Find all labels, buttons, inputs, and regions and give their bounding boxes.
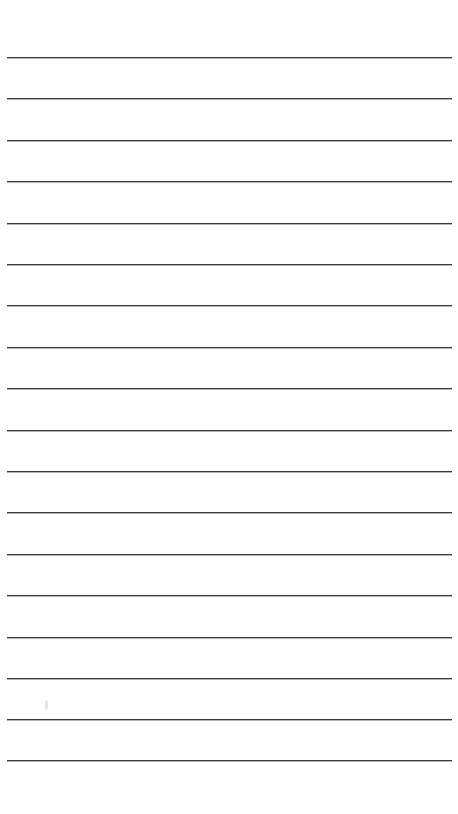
rule-line [7,430,452,431]
rule-line [7,512,452,513]
rule-line [7,223,452,224]
rule-line [7,347,452,348]
rule-line [7,98,452,99]
rule-line [7,760,452,761]
rule-line [7,678,452,679]
rule-line [7,719,452,720]
rule-line [7,181,452,182]
lined-paper-page [0,0,458,814]
rule-line [7,140,452,141]
rule-line [7,57,452,58]
rule-line [7,471,452,472]
rule-line [7,305,452,306]
rule-line [7,264,452,265]
rule-line [7,554,452,555]
ruled-lines-container [0,0,458,814]
rule-line [7,388,452,389]
faint-smudge-mark [45,700,48,710]
rule-line [7,637,452,638]
rule-line [7,595,452,596]
